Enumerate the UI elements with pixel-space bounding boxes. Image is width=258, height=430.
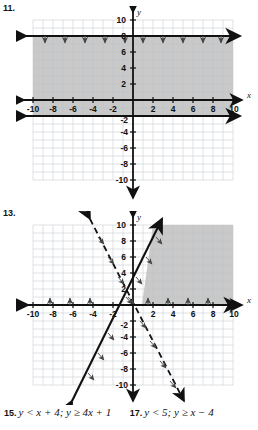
x-tick-label: 8 (211, 104, 216, 114)
y-axis-label: y (136, 212, 141, 222)
x-tick-label: -8 (49, 309, 57, 319)
x-tick-label: -2 (109, 309, 117, 319)
x-tick-label: 6 (191, 104, 196, 114)
x-tick-label: 4 (171, 104, 176, 114)
answer-15-number: 15. (4, 408, 17, 418)
problem-11-svg: x y -10 -8 -6 -4 -2 2 4 6 8 10 10 8 6 4 … (16, 6, 258, 202)
answer-17: 17.y < 5; y ≥ x − 4 (130, 406, 214, 418)
problem-13: 13. (0, 205, 258, 405)
x-tick-label: 2 (151, 104, 156, 114)
x-tick-label: 6 (191, 309, 196, 319)
problem-13-graph: x y -10 -8 -6 -4 -2 2 4 6 8 10 10 8 6 4 … (16, 211, 258, 405)
y-tick-label: -4 (120, 127, 128, 137)
x-tick-label: 4 (171, 309, 176, 319)
x-tick-label: 10 (229, 309, 239, 319)
problem-11-graph: x y -10 -8 -6 -4 -2 2 4 6 8 10 10 8 6 4 … (16, 6, 258, 202)
x-tick-label: -4 (89, 309, 97, 319)
answer-17-equation: y < 5; y ≥ x − 4 (142, 406, 213, 418)
y-tick-label: -2 (120, 115, 128, 125)
y-tick-label: -6 (120, 143, 128, 153)
problem-11-number: 11. (3, 3, 15, 13)
problem-13-number: 13. (3, 208, 16, 218)
y-tick-label: 2 (121, 79, 126, 89)
x-axis-label: x (246, 90, 251, 100)
y-axis-label: y (136, 7, 141, 17)
answer-line: 15.y < x + 4; y ≥ 4x + 1 17.y < 5; y ≥ x… (0, 406, 258, 418)
answer-15-equation: y < x + 4; y ≥ 4x + 1 (17, 406, 112, 418)
x-tick-label: -8 (49, 104, 57, 114)
y-tick-label: 6 (121, 252, 126, 262)
x-tick-label: -6 (69, 309, 77, 319)
x-tick-label: -2 (109, 104, 117, 114)
y-tick-label: -8 (120, 159, 128, 169)
y-tick-label: -6 (120, 348, 128, 358)
x-tick-label: -10 (27, 309, 40, 319)
y-tick-label: -2 (120, 320, 128, 330)
x-tick-label: 2 (151, 309, 156, 319)
y-tick-label: -10 (116, 175, 129, 185)
y-tick-label: 10 (117, 15, 127, 25)
answer-15: 15.y < x + 4; y ≥ 4x + 1 (0, 406, 111, 418)
x-axis-label: x (246, 295, 251, 305)
y-tick-label: -8 (120, 364, 128, 374)
y-tick-label: 4 (121, 63, 126, 73)
x-tick-label: -6 (69, 104, 77, 114)
x-tick-label: -4 (89, 104, 97, 114)
x-tick-label: 10 (229, 104, 239, 114)
y-tick-label: 4 (121, 268, 126, 278)
y-tick-label: 10 (117, 220, 127, 230)
answer-17-number: 17. (130, 408, 143, 418)
y-tick-label: 6 (121, 47, 126, 57)
problem-13-svg: x y -10 -8 -6 -4 -2 2 4 6 8 10 10 8 6 4 … (16, 211, 258, 405)
y-tick-label: 2 (121, 284, 126, 294)
problem-11: 11. (0, 0, 258, 205)
y-tick-label: 8 (121, 31, 126, 41)
x-tick-label: -10 (27, 104, 40, 114)
y-tick-label: -4 (120, 332, 128, 342)
x-tick-label: 8 (211, 309, 216, 319)
y-tick-label: 8 (121, 236, 126, 246)
y-tick-label: -10 (116, 380, 129, 390)
